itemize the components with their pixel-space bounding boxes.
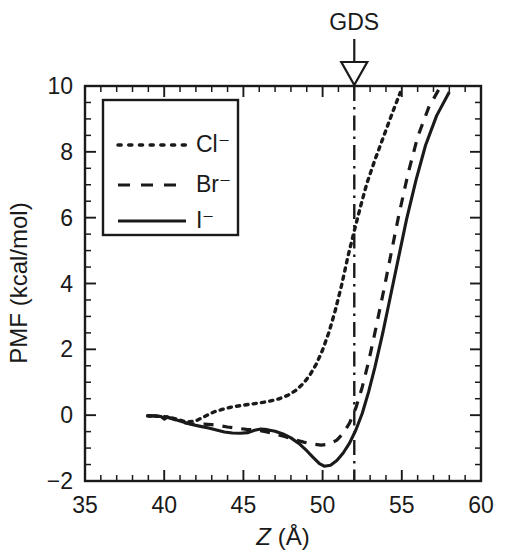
y-tick-label: 10	[47, 73, 73, 99]
y-tick-label: 0	[60, 402, 73, 428]
gds-annotation: GDS	[329, 9, 379, 85]
x-tick-label: 60	[468, 492, 494, 518]
x-tick-label: 50	[310, 492, 336, 518]
legend-box	[103, 100, 238, 235]
gds-label: GDS	[329, 9, 379, 35]
y-axis-tick-labels: 1086420−2	[47, 73, 73, 494]
legend-label-Br⁻: Br⁻	[196, 171, 231, 197]
legend-label-Cl⁻: Cl⁻	[196, 131, 230, 157]
y-tick-label: 8	[60, 139, 73, 165]
x-tick-label: 55	[389, 492, 415, 518]
x-tick-label: 35	[72, 492, 98, 518]
y-tick-label: 2	[60, 336, 73, 362]
x-tick-label: 40	[151, 492, 177, 518]
legend-label-I⁻: I⁻	[196, 207, 214, 233]
pmf-figure: 354045505560 1086420−2 GDS Z (Å) PMF (kc…	[0, 0, 511, 560]
pmf-chart-svg: 354045505560 1086420−2 GDS Z (Å) PMF (kc…	[0, 0, 511, 560]
legend: Cl⁻Br⁻I⁻	[103, 100, 238, 235]
x-tick-label: 45	[231, 492, 257, 518]
y-tick-label: 4	[60, 271, 73, 297]
x-axis-tick-labels: 354045505560	[72, 492, 494, 518]
x-axis-title: Z (Å)	[255, 523, 309, 550]
y-axis-title: PMF (kcal/mol)	[5, 202, 32, 363]
x-axis-title-symbol: Z	[255, 523, 272, 550]
y-tick-label: −2	[47, 468, 73, 494]
gds-arrow-head	[341, 62, 367, 85]
y-tick-label: 6	[60, 205, 73, 231]
